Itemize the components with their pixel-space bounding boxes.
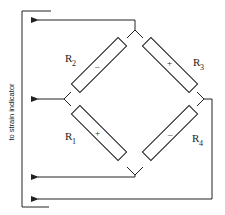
- svg-text:4: 4: [199, 139, 203, 148]
- svg-text:1: 1: [72, 137, 76, 146]
- r4-sign: –: [167, 129, 173, 139]
- r2-sign: –: [94, 61, 100, 71]
- r3-sign: +: [167, 58, 172, 68]
- wheatstone-bridge-diagram: to strain indicator: [0, 0, 225, 215]
- bridge-svg: to strain indicator: [0, 0, 225, 215]
- lead-bottom: [38, 175, 135, 177]
- label-r3: R 3: [193, 56, 204, 72]
- svg-text:2: 2: [72, 59, 76, 68]
- label-r4: R 4: [192, 132, 203, 148]
- label-r1: R 1: [65, 130, 76, 146]
- svg-text:3: 3: [200, 63, 204, 72]
- indicator-bracket: [22, 11, 51, 207]
- r1-sign: +: [95, 128, 100, 138]
- label-r2: R 2: [65, 52, 76, 68]
- side-label: to strain indicator: [7, 83, 16, 141]
- lead-top: [38, 20, 135, 30]
- bridge-arms: [64, 30, 204, 175]
